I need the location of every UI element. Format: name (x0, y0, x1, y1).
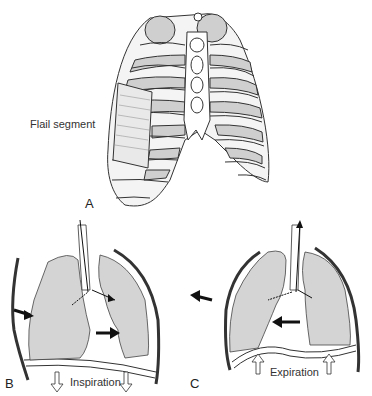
panel-c-letter: C (190, 376, 199, 391)
panel-b-letter: B (5, 376, 14, 391)
diagram-canvas (0, 0, 372, 396)
inspiration-illustration (13, 220, 159, 392)
inspiration-caption: Inspiration (70, 376, 121, 388)
expiration-caption: Expiration (270, 366, 319, 378)
panel-a-letter: A (85, 196, 94, 211)
expiration-illustration (190, 220, 359, 374)
rib-cage-illustration (108, 13, 269, 206)
flail-segment-label: Flail segment (30, 118, 95, 130)
